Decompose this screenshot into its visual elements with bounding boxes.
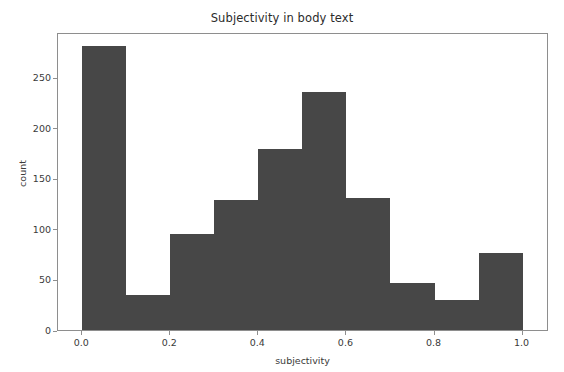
x-axis-tick-mark — [434, 331, 435, 335]
plot-area — [57, 33, 548, 331]
histogram-bar — [82, 46, 126, 330]
histogram-bar — [170, 234, 214, 330]
y-axis-tick-label: 100 — [33, 224, 51, 236]
x-axis-tick-label: 0.6 — [325, 337, 365, 348]
y-axis-tick-label: 50 — [39, 274, 51, 286]
x-axis-label: subjectivity — [57, 355, 548, 366]
x-axis-tick-label: 0.4 — [237, 337, 277, 348]
histogram-bar — [435, 300, 479, 330]
x-axis-tick-label: 0.8 — [414, 337, 454, 348]
y-axis-tick-label: 250 — [33, 72, 51, 84]
y-axis: count 050100150200250 — [0, 0, 57, 372]
histogram-bar — [258, 149, 302, 330]
x-axis-tick-mark — [257, 331, 258, 335]
y-axis-tick: 150 — [0, 173, 57, 185]
y-axis-tick-label: 200 — [33, 123, 51, 135]
y-axis-tick: 100 — [0, 224, 57, 236]
histogram-bar — [126, 295, 170, 330]
x-axis: subjectivity 0.00.20.40.60.81.0 — [0, 331, 564, 372]
chart-title: Subjectivity in body text — [0, 11, 564, 25]
histogram-bar — [479, 253, 523, 330]
y-axis-tick: 200 — [0, 123, 57, 135]
histogram-bars — [58, 34, 547, 330]
x-axis-tick-mark — [81, 331, 82, 335]
x-axis-tick-mark — [522, 331, 523, 335]
chart-figure: Subjectivity in body text count 05010015… — [0, 0, 564, 372]
x-axis-tick-label: 0.0 — [61, 337, 101, 348]
x-axis-tick-mark — [345, 331, 346, 335]
x-axis-tick-label: 1.0 — [502, 337, 542, 348]
y-axis-tick: 250 — [0, 72, 57, 84]
x-axis-tick-mark — [169, 331, 170, 335]
y-axis-tick-label: 150 — [33, 173, 51, 185]
histogram-bar — [302, 92, 346, 330]
histogram-bar — [214, 200, 258, 330]
histogram-bar — [346, 198, 390, 330]
histogram-bar — [390, 283, 434, 330]
x-axis-tick-label: 0.2 — [149, 337, 189, 348]
y-axis-tick: 50 — [0, 274, 57, 286]
